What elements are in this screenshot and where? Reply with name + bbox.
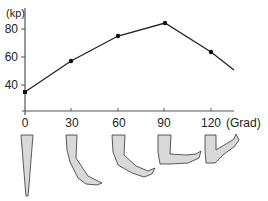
arm-illustrations — [21, 134, 239, 196]
arm-120-deg — [205, 134, 239, 163]
x-tick-label-0: 0 — [22, 116, 29, 130]
y-axis-unit: (kp) — [6, 7, 25, 19]
y-tick-label-60: 60 — [5, 50, 19, 64]
data-point-120 — [209, 50, 213, 54]
arm-90-deg — [158, 135, 201, 164]
x-tick-label-30: 30 — [65, 116, 79, 130]
x-axis-unit: (Grad) — [226, 116, 261, 130]
x-tick-label-120: 120 — [201, 116, 221, 130]
data-point-30 — [69, 59, 73, 63]
arm-0-deg — [21, 135, 33, 196]
x-tick-label-90: 90 — [157, 116, 171, 130]
x-tick-label-60: 60 — [112, 116, 126, 130]
y-tick-label-40: 40 — [5, 78, 19, 92]
chart: (kp) 80 60 40 0 30 60 90 120 (Grad) — [0, 0, 268, 201]
data-point-90 — [163, 21, 167, 25]
data-point-60 — [116, 34, 120, 38]
y-tick-label-80: 80 — [5, 22, 19, 36]
arm-30-deg — [66, 135, 102, 185]
data-point-0 — [23, 90, 27, 94]
arm-60-deg — [112, 135, 155, 177]
force-curve — [25, 23, 234, 92]
